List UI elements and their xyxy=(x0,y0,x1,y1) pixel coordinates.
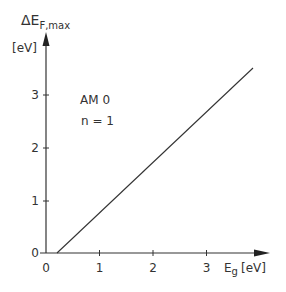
chart: 0 1 2 3 0 1 2 3 ΔEF,max [eV] Eg[eV] AM 0… xyxy=(0,0,286,292)
y-axis-arrow-icon xyxy=(43,32,50,46)
annotation-spectrum: AM 0 xyxy=(80,93,110,107)
x-axis-label: Eg[eV] xyxy=(224,261,266,277)
y-axis-label: ΔEF,max xyxy=(21,12,70,31)
x-tick-label: 3 xyxy=(203,261,211,275)
x-tick-label: 0 xyxy=(42,261,50,275)
y-tick-label: 2 xyxy=(31,141,39,155)
y-tick-label: 0 xyxy=(31,246,39,260)
x-tick-label: 1 xyxy=(96,261,104,275)
x-axis-arrow-icon xyxy=(254,250,270,257)
x-tick-label: 2 xyxy=(149,261,157,275)
y-axis-unit: [eV] xyxy=(12,41,37,55)
y-tick-label: 3 xyxy=(31,88,39,102)
annotation-ideality: n = 1 xyxy=(81,114,114,128)
y-tick-label: 1 xyxy=(31,194,39,208)
